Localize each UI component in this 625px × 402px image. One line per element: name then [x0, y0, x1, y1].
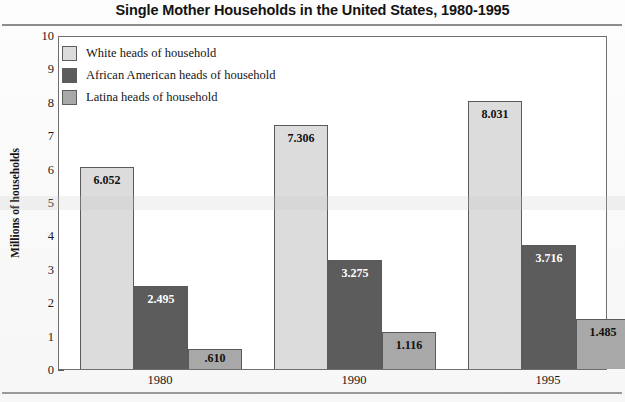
bar-value-label: 8.031 — [469, 107, 521, 122]
bar-value-label: 1.485 — [577, 325, 625, 340]
bar[interactable]: 7.306 — [274, 125, 328, 369]
legend-item-label: Latina heads of household — [86, 90, 218, 105]
x-axis-tick-labels: 198019901995 — [58, 373, 607, 393]
bar-value-label: 1.116 — [383, 338, 435, 353]
bar[interactable]: 2.495 — [134, 286, 188, 369]
y-axis-tick-label: 9 — [32, 62, 54, 77]
bar[interactable]: 3.275 — [328, 260, 382, 369]
y-axis-tick-label: 10 — [32, 29, 54, 44]
legend-swatch-icon — [62, 46, 77, 61]
y-axis-tick-label: 7 — [32, 129, 54, 144]
y-axis-tick-label: 2 — [32, 296, 54, 311]
y-axis-title-label: Millions of households — [9, 148, 21, 258]
legend-swatch-icon — [62, 90, 77, 105]
bar-value-label: 3.275 — [329, 266, 381, 281]
y-axis-tick-label: 5 — [32, 196, 54, 211]
y-axis-tick-label: 3 — [32, 262, 54, 277]
y-axis-title: Millions of households — [6, 36, 24, 370]
y-axis-tick-label: 4 — [32, 229, 54, 244]
bar-value-label: 7.306 — [275, 131, 327, 146]
y-axis-tick-label: 0 — [32, 363, 54, 378]
legend: White heads of householdAfrican American… — [62, 42, 312, 108]
y-axis-tick-label: 8 — [32, 95, 54, 110]
y-axis-tick-label: 6 — [32, 162, 54, 177]
legend-item-label: African American heads of household — [86, 68, 276, 83]
title-divider — [2, 24, 622, 26]
y-axis-tick-label: 1 — [32, 329, 54, 344]
bar[interactable]: 8.031 — [468, 101, 522, 369]
bar[interactable]: 3.716 — [522, 245, 576, 369]
bar-value-label: 2.495 — [135, 292, 187, 307]
bottom-divider — [2, 392, 622, 394]
legend-item-label: White heads of household — [86, 46, 216, 61]
page-title: Single Mother Households in the United S… — [0, 2, 625, 18]
bar-value-label: 3.716 — [523, 251, 575, 266]
x-axis-tick-label: 1990 — [342, 373, 367, 388]
legend-swatch-icon — [62, 68, 77, 83]
bar[interactable]: 1.116 — [382, 332, 436, 369]
y-axis-tick-mark — [58, 370, 64, 371]
bar-value-label: 6.052 — [81, 173, 133, 188]
legend-item[interactable]: White heads of household — [62, 42, 312, 64]
x-axis-tick-label: 1995 — [536, 373, 561, 388]
x-axis-tick-label: 1980 — [148, 373, 173, 388]
legend-item[interactable]: African American heads of household — [62, 64, 312, 86]
legend-item[interactable]: Latina heads of household — [62, 86, 312, 108]
chart-page: Single Mother Households in the United S… — [0, 0, 625, 402]
y-axis-tick-labels: 012345678910 — [28, 36, 54, 370]
bar[interactable]: 1.485 — [576, 319, 625, 369]
bar[interactable]: .610 — [188, 349, 242, 369]
bar-value-label: .610 — [189, 351, 241, 366]
bar[interactable]: 6.052 — [80, 167, 134, 369]
